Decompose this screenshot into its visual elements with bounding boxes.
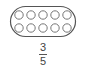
circle — [63, 11, 71, 19]
circle — [39, 24, 47, 32]
circle — [15, 24, 23, 32]
circle — [51, 11, 59, 19]
circle — [15, 11, 23, 19]
fraction-numerator: 3 — [40, 42, 46, 53]
ten-frame-diagram: 3 5 — [0, 0, 86, 74]
circle — [63, 24, 71, 32]
circle — [27, 24, 35, 32]
fraction-denominator: 5 — [40, 56, 46, 67]
circle — [51, 24, 59, 32]
fraction-label: 3 5 — [31, 42, 55, 67]
circle-grid — [15, 11, 71, 32]
circle — [27, 11, 35, 19]
circle — [39, 11, 47, 19]
